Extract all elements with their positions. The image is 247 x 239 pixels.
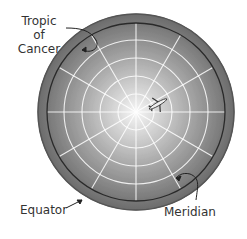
tropic-label-line2: Cancer <box>14 42 64 56</box>
equator-pointer-arrow <box>66 200 82 208</box>
equator-label: Equator <box>20 203 67 217</box>
tropic-of-cancer-label: Tropic of Cancer <box>14 14 64 56</box>
meridian-lines <box>34 10 238 214</box>
meridian-label: Meridian <box>164 205 216 219</box>
tropic-label-line1: Tropic of <box>14 14 64 42</box>
